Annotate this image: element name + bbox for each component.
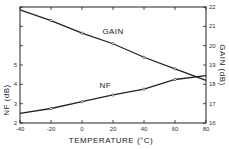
series-label-nf: NF: [100, 81, 111, 90]
data-point-marker: [81, 101, 83, 103]
data-point-marker: [50, 107, 52, 109]
data-point-marker: [174, 78, 176, 80]
left-y-axis-ticks: 2345: [14, 7, 23, 126]
x-tick-label: -20: [47, 126, 56, 132]
right-y-tick-label: 19: [209, 62, 216, 68]
left-y-tick-label: 5: [14, 62, 18, 68]
data-point-marker: [143, 88, 145, 90]
right-y-tick-label: 17: [209, 101, 216, 107]
right-y-axis-title: GAIN (dB): [218, 44, 227, 85]
data-point-marker: [81, 32, 83, 34]
x-tick-label: -40: [16, 126, 25, 132]
x-axis-title: TEMPERATURE (°C): [69, 136, 153, 145]
x-tick-label: 0: [80, 126, 84, 132]
right-y-tick-label: 21: [209, 23, 216, 29]
left-y-tick-label: 4: [14, 81, 18, 87]
right-y-tick-label: 18: [209, 81, 216, 87]
plot-frame: [20, 7, 206, 123]
data-point-marker: [50, 19, 52, 21]
series-lines: [20, 10, 206, 113]
x-tick-label: 20: [110, 126, 117, 132]
right-y-tick-label: 22: [209, 4, 216, 10]
left-y-tick-label: 3: [14, 101, 18, 107]
gain-nf-vs-temperature-chart: -40-20020406080 2345 16171819202122 GAIN…: [0, 0, 229, 149]
left-y-axis-title: NF (dB): [2, 84, 11, 116]
series-label-gain: GAIN: [102, 27, 123, 36]
data-point-marker: [143, 56, 145, 58]
right-y-axis-ticks: 16171819202122: [203, 4, 216, 126]
series-labels: GAINNF: [100, 27, 124, 90]
x-tick-label: 60: [172, 126, 179, 132]
right-y-tick-label: 16: [209, 120, 216, 126]
data-point-marker: [112, 94, 114, 96]
x-tick-label: 40: [141, 126, 148, 132]
data-point-marker: [112, 43, 114, 45]
data-point-marker: [174, 68, 176, 70]
right-y-tick-label: 20: [209, 43, 216, 49]
x-axis-ticks: -40-20020406080: [16, 7, 210, 132]
plot-border: [20, 7, 206, 123]
x-tick-label: 80: [203, 126, 210, 132]
